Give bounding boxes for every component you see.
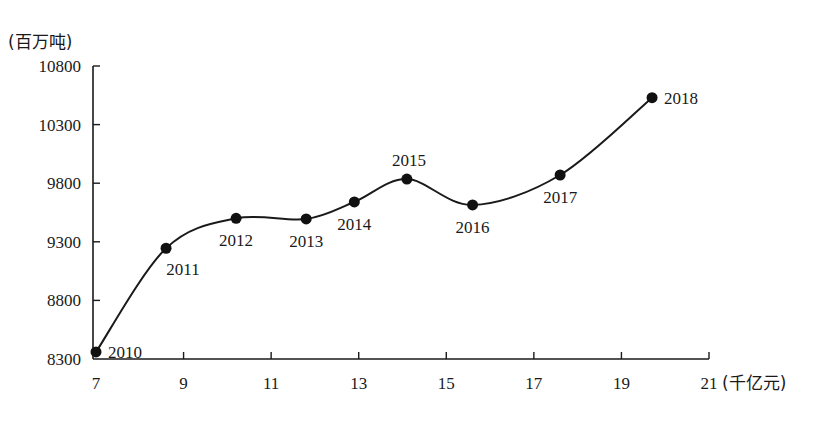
data-point-marker	[161, 243, 172, 254]
y-tick-label: 10800	[39, 57, 82, 76]
data-point-marker	[467, 199, 478, 210]
data-point-marker	[647, 92, 658, 103]
data-point-label: 2015	[392, 151, 426, 170]
data-point-marker	[231, 213, 242, 224]
y-tick-label: 9300	[47, 233, 81, 252]
x-tick-label: 15	[438, 374, 455, 393]
data-point-label: 2010	[108, 343, 142, 362]
y-tick-label: 9800	[47, 174, 81, 193]
data-point-marker	[91, 346, 102, 357]
data-point-label: 2014	[337, 215, 372, 234]
data-point-label: 2013	[289, 232, 323, 251]
data-points: 201020112012201320142015201620172018	[91, 89, 699, 362]
data-point-label: 2017	[543, 188, 578, 207]
data-point-marker	[555, 169, 566, 180]
data-curve	[96, 98, 652, 352]
x-tick-label: 9	[179, 374, 188, 393]
data-point-label: 2011	[166, 260, 199, 279]
data-point-label: 2012	[219, 231, 253, 250]
y-tick-label: 8300	[47, 350, 81, 369]
x-tick-label: 21	[701, 374, 718, 393]
x-axis-unit-label: (千亿元)	[722, 373, 786, 393]
line-chart: 8300880093009800103001080079111315171921…	[0, 0, 831, 427]
data-point-marker	[349, 196, 360, 207]
x-tick-label: 11	[263, 374, 279, 393]
data-point-marker	[301, 213, 312, 224]
x-tick-label: 13	[350, 374, 367, 393]
x-tick-label: 7	[92, 374, 101, 393]
x-tick-label: 17	[525, 374, 543, 393]
y-axis-unit-label: (百万吨)	[8, 32, 72, 52]
y-tick-label: 10300	[39, 116, 82, 135]
y-tick-label: 8800	[47, 291, 81, 310]
x-tick-label: 19	[613, 374, 630, 393]
data-point-marker	[401, 174, 412, 185]
data-point-label: 2018	[664, 89, 698, 108]
data-point-label: 2016	[456, 218, 490, 237]
